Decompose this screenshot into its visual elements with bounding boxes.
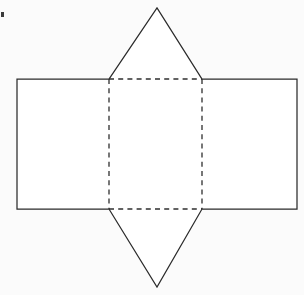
geometric-net-diagram — [0, 0, 304, 295]
scan-speck-artifact — [1, 12, 4, 17]
face-left-rectangle — [17, 79, 109, 209]
face-middle-rectangle — [109, 79, 202, 209]
figure-root — [0, 0, 304, 295]
face-right-rectangle — [202, 79, 297, 209]
